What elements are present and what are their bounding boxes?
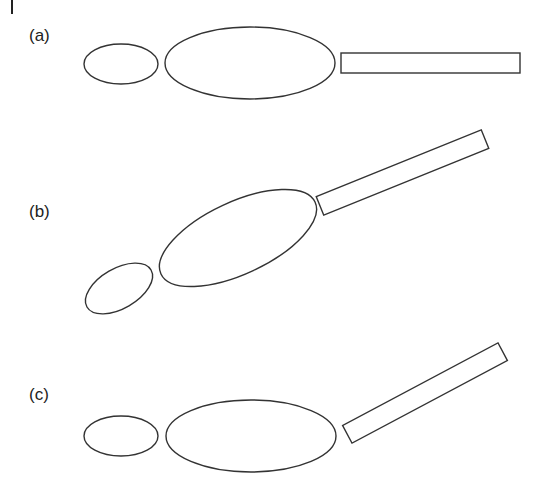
rod-b xyxy=(316,130,489,215)
page-edge-mark xyxy=(11,0,13,14)
panel-a: (a) xyxy=(29,26,520,99)
rod-a xyxy=(341,53,520,73)
panel-label-c: (c) xyxy=(29,385,49,404)
figure-canvas: (a) (b) (c) xyxy=(0,0,542,497)
large-ellipse-a xyxy=(165,27,335,99)
panel-label-b: (b) xyxy=(29,202,50,221)
rod-c xyxy=(343,343,508,443)
panel-b: (b) xyxy=(29,130,489,324)
large-ellipse-c xyxy=(166,400,336,472)
small-ellipse-b xyxy=(77,253,161,325)
large-ellipse-b xyxy=(146,169,331,306)
small-ellipse-c xyxy=(84,416,158,456)
small-ellipse-a xyxy=(84,44,158,84)
panel-c: (c) xyxy=(29,343,507,472)
panel-label-a: (a) xyxy=(29,26,50,45)
